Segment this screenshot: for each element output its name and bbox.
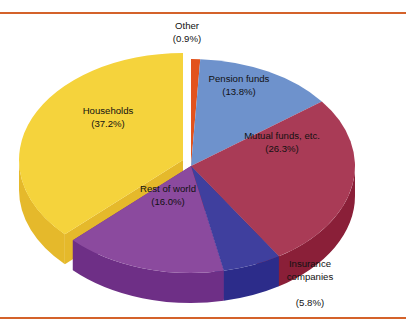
slice-label-mutual-funds-etc-: Mutual funds, etc. — [244, 130, 320, 141]
slice-label-other: Other — [175, 20, 200, 31]
slice-label-households: Households — [83, 105, 134, 116]
slice-value-mutual-funds-etc-: (26.3%) — [265, 143, 299, 154]
slice-label-line2: companies — [287, 271, 334, 282]
pie-chart: Other(0.9%)Pension funds(13.8%)Mutual fu… — [0, 0, 406, 334]
slice-label-pension-funds: Pension funds — [209, 73, 270, 84]
slice-value-rest-of-world: (16.0%) — [151, 196, 185, 207]
figure-canvas: Other(0.9%)Pension funds(13.8%)Mutual fu… — [0, 0, 406, 334]
slice-label-rest-of-world: Rest of world — [140, 183, 196, 194]
slice-value-other: (0.9%) — [173, 33, 201, 44]
slice-value-pension-funds: (13.8%) — [222, 86, 256, 97]
slice-value-households: (37.2%) — [91, 118, 125, 129]
slice-value-insurance-companies: (5.8%) — [296, 297, 324, 308]
slice-label-insurance-companies: Insurance — [289, 258, 331, 269]
